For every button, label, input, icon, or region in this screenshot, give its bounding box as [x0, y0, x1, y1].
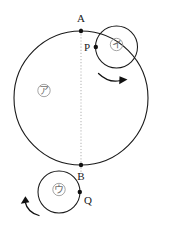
counterclockwise-rotation-arrow	[21, 196, 39, 215]
circle-upper-small-label-group: イ	[110, 38, 122, 50]
counterclockwise-rotation-arrow-arc	[25, 202, 39, 216]
clockwise-rotation-arrow	[99, 74, 128, 85]
circle-lower-small-label-group: ウ	[53, 183, 65, 195]
point-q-dot	[78, 190, 82, 194]
point-b-dot	[79, 163, 83, 167]
counterclockwise-rotation-arrow-head	[21, 196, 30, 204]
clockwise-rotation-arrow-head	[119, 76, 127, 84]
figure-canvas: A B P Q ア イ ウ	[0, 0, 171, 225]
circle-upper-small-label: イ	[112, 39, 122, 50]
circle-large-label: ア	[39, 85, 49, 96]
geometry-figure: A B P Q ア イ ウ	[0, 0, 171, 225]
point-q-label: Q	[84, 194, 92, 206]
clockwise-rotation-arrow-arc	[99, 74, 121, 82]
point-p-dot	[94, 45, 98, 49]
point-a-label: A	[77, 12, 85, 24]
point-p-label: P	[84, 41, 90, 53]
point-a-dot	[79, 29, 83, 33]
circle-large-label-group: ア	[38, 84, 50, 96]
circle-lower-small-label: ウ	[54, 184, 64, 195]
circle-large-outline	[14, 31, 148, 165]
point-b-label: B	[77, 170, 84, 182]
